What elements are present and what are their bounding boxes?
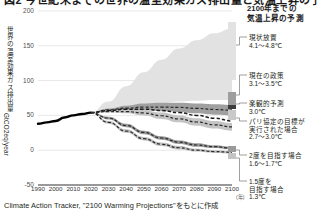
y-tick: 0 <box>12 146 34 153</box>
x-tick: 2050 <box>137 185 151 192</box>
x-axis-ticks: 1990200020102020203020402050206020702080… <box>38 185 234 195</box>
legend-item-4: 2度を目指す場合1.6〜1.7℃ <box>249 152 317 167</box>
legend-swatch-3 <box>228 110 236 120</box>
legend-swatch-0 <box>228 22 236 80</box>
legend: 2100年までの 気温上昇の予測 <box>247 4 317 23</box>
legend-item-name: 楽観的予測 <box>249 100 317 108</box>
legend-item-value: 3.0℃ <box>249 108 317 116</box>
legend-item-3: パリ協定の目標が実行された場合2.7〜3.0℃ <box>249 118 317 141</box>
projection-bands <box>91 28 232 153</box>
legend-title: 2100年までの 気温上昇の予測 <box>247 4 317 23</box>
x-tick: 2060 <box>155 185 169 192</box>
legend-item-5: 1.5度を目指す場合1.3℃ <box>249 178 317 201</box>
x-tick: 2090 <box>207 185 221 192</box>
legend-swatch-1 <box>228 92 236 105</box>
legend-swatch-4 <box>228 146 236 152</box>
legend-item-value: 1.6〜1.7℃ <box>249 160 317 168</box>
y-axis-unit: GtCO2eq/year <box>3 113 10 156</box>
legend-item-name: 2度を目指す場合 <box>249 152 317 160</box>
y-tick: 100 <box>12 77 34 84</box>
legend-item-name: 1.5度を <box>249 178 317 186</box>
y-tick: 200 <box>12 7 34 14</box>
legend-item-value: 4.1〜4.8℃ <box>249 42 317 50</box>
legend-item-value: 3.1〜3.5℃ <box>249 80 317 88</box>
legend-item-name-2: 目指す場合 <box>249 186 317 194</box>
legend-title-line1: 2100年までの <box>247 4 297 13</box>
legend-item-name: 現状放置 <box>249 34 317 42</box>
x-tick: 2040 <box>119 185 133 192</box>
x-tick: 2000 <box>49 185 63 192</box>
legend-item-1: 現在の政策3.1〜3.5℃ <box>249 72 317 87</box>
legend-item-2: 楽観的予測3.0℃ <box>249 100 317 115</box>
legend-item-name: 現在の政策 <box>249 72 317 80</box>
legend-item-0: 現状放置4.1〜4.8℃ <box>249 34 317 49</box>
legend-connector-5 <box>232 158 247 181</box>
legend-item-value: 2.7〜3.0℃ <box>249 133 317 141</box>
source-note: Climate Action Tracker, "2100 Warming Pr… <box>4 199 218 210</box>
legend-item-value: 1.3℃ <box>249 193 317 201</box>
x-tick: 2030 <box>102 185 116 192</box>
plot-area <box>38 11 232 185</box>
x-tick: 2020 <box>84 185 98 192</box>
x-tick: 1990 <box>31 185 45 192</box>
y-tick: 50 <box>12 111 34 118</box>
legend-swatch-2 <box>228 105 236 109</box>
legend-item-name: パリ協定の目標が <box>249 118 317 126</box>
band-現状放置 <box>91 28 232 112</box>
y-axis-label: 世界の温室効果ガス排出量 <box>2 26 13 112</box>
x-tick: 2070 <box>172 185 186 192</box>
legend-title-line2: 気温上昇の予測 <box>247 14 304 23</box>
x-tick: 2010 <box>66 185 80 192</box>
x-tick: 2080 <box>190 185 204 192</box>
chart-svg <box>38 11 232 185</box>
y-tick: 150 <box>12 42 34 49</box>
legend-item-name-2: 実行された場合 <box>249 126 317 134</box>
figure-root: 図2 今世紀末までの世界の温室効果ガス排出量と気温上昇の予測 世界の温室効果ガス… <box>0 0 317 212</box>
legend-swatch-5 <box>228 153 236 159</box>
historical-line <box>38 113 91 124</box>
